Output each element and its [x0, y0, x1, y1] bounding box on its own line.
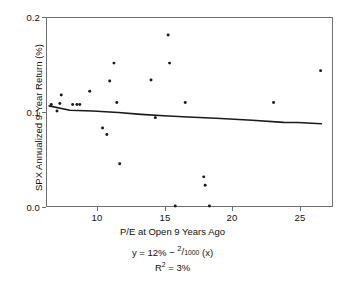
plot-area — [46, 17, 333, 207]
caption-r-squared: R2 = 3% — [0, 260, 345, 275]
data-point — [71, 103, 74, 106]
data-point — [174, 205, 177, 208]
regression-line — [49, 106, 321, 124]
data-point — [78, 103, 81, 106]
x-tickmark-10 — [97, 207, 98, 211]
data-point — [115, 101, 118, 104]
equation-denominator: 1000 — [184, 249, 199, 256]
x-tickmark-15 — [165, 207, 166, 211]
data-point — [55, 110, 58, 113]
r-squared-prefix: R — [155, 262, 162, 273]
y-axis-title: SPX Annualized 9-Year Return (%) — [33, 18, 44, 218]
chart-caption: y = 12% − 2/1000 (x) R2 = 3% — [0, 245, 345, 275]
data-layer — [47, 18, 332, 206]
data-point — [150, 79, 153, 82]
x-tick-label-25: 25 — [295, 212, 306, 223]
data-point — [88, 90, 91, 93]
data-point — [154, 116, 157, 119]
data-points-group — [50, 33, 322, 207]
x-tickmark-25 — [300, 207, 301, 211]
scatter-chart-figure: 0.2 0.1 0.0 10 15 20 25 SPX Annualized 9… — [0, 0, 345, 286]
data-point — [319, 69, 322, 72]
x-tick-label-10: 10 — [92, 212, 103, 223]
x-axis-title: P/E at Open 9 Years Ago — [0, 226, 345, 237]
data-point — [208, 205, 211, 208]
data-point — [118, 162, 121, 165]
data-point — [204, 184, 207, 187]
data-point — [112, 62, 115, 65]
data-point — [272, 101, 275, 104]
equation-prefix: y = 12% − — [132, 247, 177, 258]
data-point — [105, 133, 108, 136]
data-point — [167, 33, 170, 36]
data-point — [184, 101, 187, 104]
x-tickmark-20 — [232, 207, 233, 211]
data-point — [202, 175, 205, 178]
equation-suffix: (x) — [199, 247, 213, 258]
data-point — [168, 62, 171, 65]
data-point — [60, 94, 63, 97]
r-squared-value: = 3% — [166, 262, 191, 273]
x-tick-label-15: 15 — [160, 212, 171, 223]
regression-line-path — [49, 106, 321, 124]
caption-equation: y = 12% − 2/1000 (x) — [0, 245, 345, 260]
data-point — [75, 103, 78, 106]
x-tick-label-20: 20 — [227, 212, 238, 223]
data-point — [108, 79, 111, 82]
equation-fraction: 2/1000 — [177, 244, 199, 259]
data-point — [101, 126, 104, 129]
data-point — [58, 102, 61, 105]
data-point — [50, 103, 53, 106]
